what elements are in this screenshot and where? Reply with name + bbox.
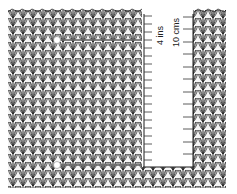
- ruler-window: [144, 6, 193, 167]
- cm-ruler-label: 10 cms: [171, 18, 181, 47]
- top-pin-icon: [54, 37, 61, 44]
- gauge-swatch-diagram: [0, 0, 237, 194]
- inch-ruler-label: 4 ins: [155, 26, 165, 45]
- bottom-pin-icon: [54, 162, 61, 169]
